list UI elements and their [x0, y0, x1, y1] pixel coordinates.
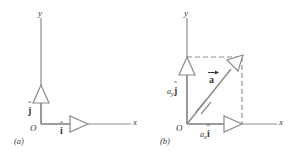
- panel-b-ay-jhat-label: ay ˆ j: [167, 86, 177, 98]
- i-hat-caret: ˆ: [60, 121, 63, 130]
- panel-b-ax-arrowhead: [224, 116, 242, 132]
- j-hat-caret: ˆ: [28, 101, 31, 110]
- panel-a-i-hat-label: ˆ i: [60, 126, 63, 136]
- panel-b-ay-arrowhead: [179, 57, 195, 75]
- panel-a-x-axis-label: x: [133, 118, 137, 127]
- panel-a-y-axis-label: y: [38, 9, 42, 18]
- panel-a-i-arrowhead: [70, 116, 88, 132]
- panel-a-caption: (a): [14, 137, 24, 146]
- vector-arrow-overbar: [208, 70, 219, 75]
- panel-b-ax-ihat-label: ax ˆ i: [200, 129, 210, 141]
- ax-i-hat-caret: ˆ: [207, 124, 210, 133]
- panel-b-origin-label: O: [176, 124, 183, 133]
- panel-a-origin-label: O: [30, 124, 37, 133]
- panel-b-x-axis-label: x: [279, 118, 283, 127]
- panel-b-y-axis-label: y: [184, 9, 188, 18]
- panel-a-j-hat-label: ˆ j: [28, 106, 31, 116]
- panel-b-caption: (b): [160, 137, 170, 146]
- ay-j-hat-caret: ˆ: [174, 81, 177, 90]
- panel-a-graphics: [33, 18, 131, 132]
- panel-b-graphics: [179, 18, 277, 132]
- resultant-base: a: [209, 74, 214, 85]
- panel-a-j-arrowhead: [33, 85, 49, 103]
- figure-canvas: [0, 0, 296, 154]
- panel-b-resultant-label: a: [209, 75, 214, 85]
- vector-figure: y x O ˆ j ˆ i (a) y x O ay ˆ j ax ˆ i: [0, 0, 296, 154]
